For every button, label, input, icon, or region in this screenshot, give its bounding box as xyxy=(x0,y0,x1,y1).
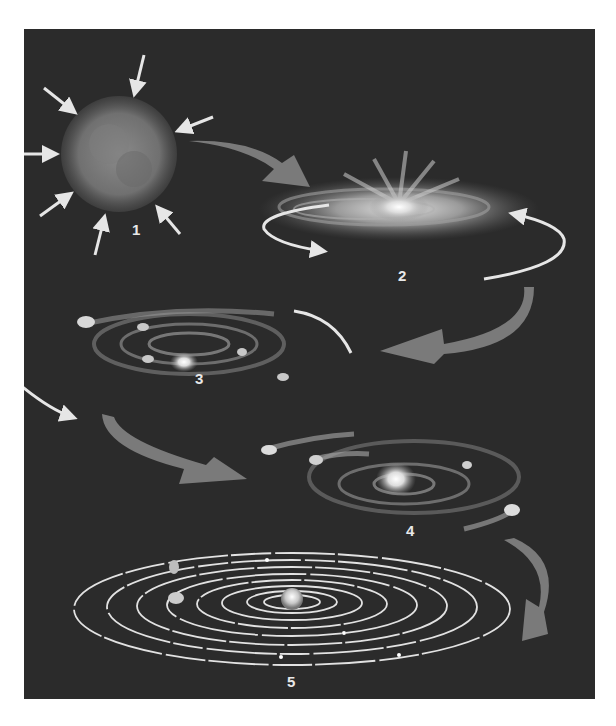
ringed-planet-icon xyxy=(169,560,179,574)
diagram-frame: 1 2 3 4 5 xyxy=(24,29,595,699)
stage-1-nebula xyxy=(24,55,213,255)
stage-5-solar-system xyxy=(74,553,510,665)
arrow-2-to-3-icon xyxy=(380,287,534,364)
sun-icon xyxy=(281,588,303,610)
stage-2-rotating-disk xyxy=(259,151,564,279)
stage-label-5: 5 xyxy=(287,674,295,689)
stage-label-3: 3 xyxy=(195,371,203,386)
solar-system-formation-diagram xyxy=(24,29,595,699)
stage-label-2: 2 xyxy=(398,268,406,283)
arrow-1-to-2-icon xyxy=(189,141,310,187)
stage-label-1: 1 xyxy=(132,222,140,237)
arrow-3-to-4-icon xyxy=(102,414,247,484)
stage-label-4: 4 xyxy=(406,523,414,538)
figure-page: 1 2 3 4 5 xyxy=(0,0,616,726)
arrow-4-to-5-icon xyxy=(504,538,549,641)
gas-giant-planet-icon xyxy=(168,592,184,604)
rotation-arrow-3-icon xyxy=(294,311,351,353)
rotation-arrow-3b-icon xyxy=(24,384,72,417)
stage-3-protoplanetary-disk xyxy=(24,311,351,417)
stage-4-planetesimals xyxy=(261,434,520,529)
